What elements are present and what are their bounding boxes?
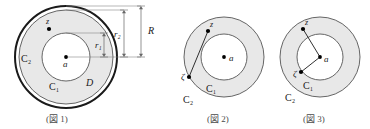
figure-3-center-point xyxy=(318,55,322,59)
figure-3-point-zeta xyxy=(299,70,303,74)
figure-1-label-R: R xyxy=(147,25,154,36)
figure-2-label-c2: C₂ xyxy=(183,94,193,105)
figure-3-label-c2: C₂ xyxy=(285,92,295,103)
figure-3-label-a: a xyxy=(324,54,329,64)
figure-1-point-z xyxy=(47,27,51,31)
figure-1-label-d: D xyxy=(85,77,94,88)
figure-1-label-r2: r₂ xyxy=(114,29,121,39)
figure-1-label-a: a xyxy=(63,59,68,69)
figure-board: r₁ r₂ R a xyxy=(0,0,370,129)
figure-1-caption: (図 1) xyxy=(46,114,68,124)
figure-2-point-z xyxy=(206,29,210,33)
figure-3-point-z xyxy=(301,27,305,31)
figure-3-label-c1: C₁ xyxy=(303,80,313,91)
figure-2-label-c1: C₁ xyxy=(206,83,216,94)
figure-2-point-zeta xyxy=(187,75,191,79)
figure-3-caption: (図 3) xyxy=(303,114,325,124)
figure-1-label-c2: C₂ xyxy=(21,53,31,64)
figure-1: r₁ r₂ R a xyxy=(15,6,154,124)
figure-1-label-c1: C₁ xyxy=(49,81,59,92)
figure-3: a z ζ C₁ C₂ (図 3) xyxy=(280,17,360,124)
figures-canvas: r₁ r₂ R a xyxy=(0,0,370,129)
figure-2-center-point xyxy=(222,55,226,59)
figure-2-label-zeta: ζ xyxy=(181,72,186,82)
figure-1-label-r1: r₁ xyxy=(95,40,102,50)
figure-2-caption: (図 2) xyxy=(207,114,229,124)
figure-1-dimension-R: R xyxy=(137,6,154,57)
figure-2-label-a: a xyxy=(229,53,234,63)
figure-2: a z ζ C₁ C₂ (図 2) xyxy=(181,17,264,124)
